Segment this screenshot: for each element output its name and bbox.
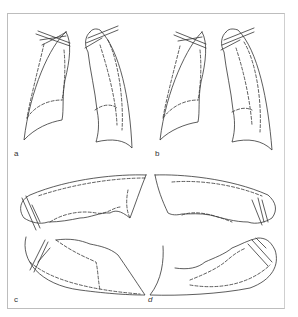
panel-label-d: d [148, 296, 152, 304]
panel-d-lower [150, 238, 276, 295]
panel-label-c: c [14, 296, 18, 304]
panel-a-right-lung [85, 26, 132, 148]
panel-label-a: a [14, 150, 18, 158]
panel-b-right-lung [221, 28, 272, 150]
lung-diagram [0, 0, 298, 317]
panel-c-lower [25, 237, 145, 295]
panel-b-left-lung [160, 32, 206, 140]
panel-a-left-lung [24, 31, 70, 140]
panel-c-upper [21, 175, 146, 230]
panel-d-upper [155, 175, 275, 225]
panel-label-b: b [155, 150, 159, 158]
